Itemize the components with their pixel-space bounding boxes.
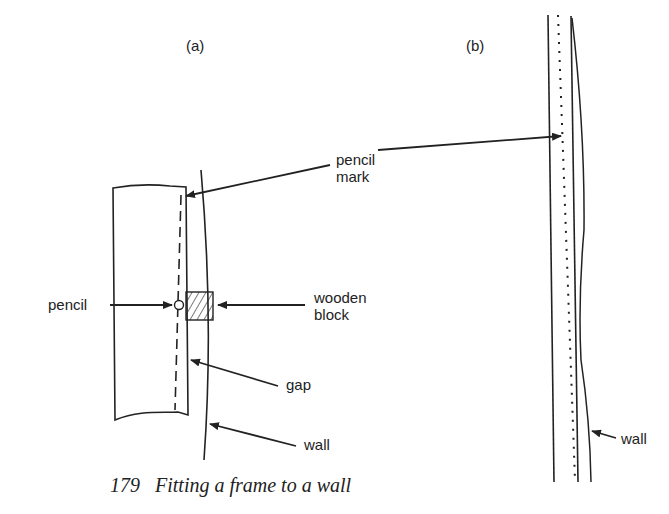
frame-b — [548, 15, 578, 482]
label-wall-a: wall — [304, 436, 330, 453]
figure-caption-text: Fitting a frame to a wall — [155, 474, 351, 496]
label-wooden-block-line2: block — [314, 306, 349, 323]
label-wooden-block-line1: wooden — [314, 289, 367, 306]
label-wall-b: wall — [621, 430, 647, 447]
pencil-mark-arrow-b — [378, 136, 561, 150]
pencil-circle — [175, 301, 184, 310]
diagram-canvas — [0, 0, 669, 514]
figure-caption: 179 Fitting a frame to a wall — [110, 474, 351, 497]
label-gap: gap — [286, 376, 311, 393]
panel-label-a: (a) — [186, 37, 204, 54]
wall-arrow-a — [210, 424, 296, 446]
wall-arrow-b — [592, 431, 616, 438]
label-pencil-mark-line1: pencil — [336, 151, 375, 168]
panel-label-b: (b) — [466, 37, 484, 54]
label-pencil-mark-line2: mark — [336, 168, 369, 185]
gap-arrow — [191, 360, 278, 386]
figure-number: 179 — [110, 474, 140, 496]
label-pencil: pencil — [48, 296, 87, 313]
wooden-block — [186, 292, 213, 320]
pencil-mark-arrow-a — [186, 165, 330, 196]
